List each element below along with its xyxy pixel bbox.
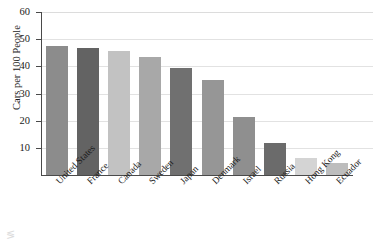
y-axis-tick-label: 10 <box>8 143 30 153</box>
page-artifact-mark: ≶ <box>6 228 32 240</box>
bar-chart: 102030405060 Cars per 100 People United … <box>0 0 379 247</box>
bar[interactable] <box>170 68 192 175</box>
y-axis-title: Cars per 100 People <box>11 3 22 133</box>
bar[interactable] <box>202 80 224 175</box>
y-axis-tick-label-wrap: 10 <box>8 143 36 153</box>
bar[interactable] <box>139 57 161 175</box>
bar[interactable] <box>46 46 68 175</box>
bar[interactable] <box>108 51 130 175</box>
